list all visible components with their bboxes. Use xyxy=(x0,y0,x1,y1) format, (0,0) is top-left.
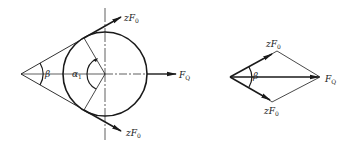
lower-force-label-right: zF0 xyxy=(263,106,279,117)
lower-force-vector xyxy=(230,77,270,100)
lower-force-label: zF0 xyxy=(125,128,141,139)
resultant-label-right: FQ xyxy=(324,74,336,85)
upper-force-label-right: zF0 xyxy=(265,39,281,50)
pulley-diagram: β α1 zF0 zF0 FQ xyxy=(21,8,190,140)
alpha-label: α1 xyxy=(72,69,82,80)
force-parallelogram: β zF0 zF0 FQ xyxy=(230,39,336,117)
parallelogram-side-upper xyxy=(277,51,320,77)
lower-belt-line xyxy=(21,74,84,110)
beta-label-right: β xyxy=(252,71,258,81)
beta-label: β xyxy=(44,69,50,79)
upper-force-vector-tail xyxy=(270,51,277,55)
belt-force-diagram: β α1 zF0 zF0 FQ β xyxy=(0,0,351,145)
upper-force-label: zF0 xyxy=(123,13,139,24)
parallelogram-side-lower xyxy=(272,77,320,102)
upper-belt-force-arrow xyxy=(84,17,121,38)
resultant-force-label: FQ xyxy=(178,70,190,81)
lower-belt-force-arrow xyxy=(84,110,121,131)
